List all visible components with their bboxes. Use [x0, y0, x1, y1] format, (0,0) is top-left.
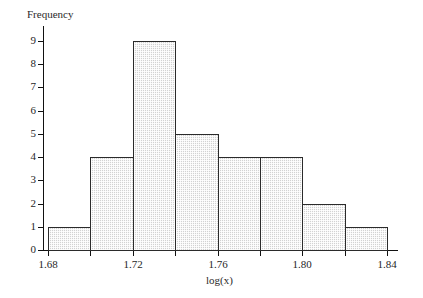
y-axis-line: [43, 26, 44, 251]
x-axis-tick: [218, 251, 219, 256]
y-axis-tick-label: 7: [12, 81, 36, 92]
y-axis-tick-label-text: 9: [14, 35, 36, 46]
y-axis-tick-label: 0: [12, 244, 36, 255]
x-axis-tick-label: 1.76: [196, 258, 240, 270]
y-axis-tick-label-text: 8: [14, 58, 36, 69]
x-axis-tick: [387, 251, 388, 256]
y-axis-tick: [38, 180, 43, 181]
y-axis-tick: [38, 157, 43, 158]
y-axis-tick-label-text: 4: [14, 151, 36, 162]
histogram-bar: [345, 227, 388, 251]
y-axis-tick-label: 9: [12, 35, 36, 46]
x-axis-tick: [133, 251, 134, 256]
x-axis-tick: [175, 251, 176, 256]
y-axis-tick: [38, 204, 43, 205]
histogram-bar: [260, 157, 303, 251]
x-axis-title-text: log(x): [206, 274, 233, 287]
y-axis-tick-label-text: 3: [14, 174, 36, 185]
histogram-bar: [48, 227, 91, 251]
y-axis-tick-label-text: 2: [14, 198, 36, 209]
x-axis-tick-label: 1.80: [280, 258, 324, 270]
y-axis-tick-label: 6: [12, 105, 36, 116]
y-axis-tick-label-text: 0: [14, 244, 36, 255]
histogram-bar: [218, 157, 261, 251]
x-axis-title: log(x): [0, 274, 423, 287]
histogram-bar: [175, 134, 219, 251]
y-axis-tick-label: 3: [12, 174, 36, 185]
y-axis-tick-label: 2: [12, 198, 36, 209]
y-axis-tick: [38, 64, 43, 65]
y-axis-tick: [38, 111, 43, 112]
y-axis-tick-label-text: 7: [14, 81, 36, 92]
x-axis-tick-label: 1.72: [111, 258, 155, 270]
x-axis-tick: [260, 251, 261, 256]
x-axis-tick: [90, 251, 91, 256]
histogram-figure: Frequency 0123456789 1.681.721.761.801.8…: [0, 0, 423, 298]
y-axis-tick: [38, 134, 43, 135]
y-axis-tick-label-text: 5: [14, 128, 36, 139]
x-axis-tick: [345, 251, 346, 256]
plot-area: 0123456789 1.681.721.761.801.84: [0, 0, 423, 298]
histogram-bar: [90, 157, 134, 251]
y-axis-tick-label: 1: [12, 221, 36, 232]
x-axis-tick: [302, 251, 303, 256]
x-axis-tick-label: 1.84: [365, 258, 409, 270]
y-axis-tick-label: 4: [12, 151, 36, 162]
y-axis-tick: [38, 250, 43, 251]
y-axis-tick-label: 5: [12, 128, 36, 139]
y-axis-tick: [38, 87, 43, 88]
histogram-bar: [133, 41, 176, 251]
y-axis-tick: [38, 41, 43, 42]
x-axis-tick-label: 1.68: [26, 258, 70, 270]
y-axis-tick-label-text: 1: [14, 221, 36, 232]
y-axis-tick-label-text: 6: [14, 105, 36, 116]
histogram-bar: [302, 204, 346, 251]
x-axis-tick: [48, 251, 49, 256]
y-axis-tick: [38, 227, 43, 228]
y-axis-tick-label: 8: [12, 58, 36, 69]
